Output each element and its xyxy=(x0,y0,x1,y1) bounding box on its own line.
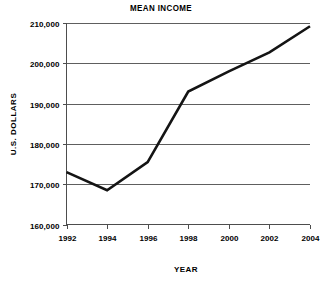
plot-area: 160,000170,000180,000190,000200,000210,0… xyxy=(0,0,322,282)
tick-marks xyxy=(63,24,311,229)
y-axis-tick-label: 180,000 xyxy=(30,141,60,150)
y-axis-tick-labels: 160,000170,000180,000190,000200,000210,0… xyxy=(30,20,60,231)
x-axis-title: YEAR xyxy=(174,265,198,274)
y-axis-tick-label: 160,000 xyxy=(30,222,60,231)
y-axis-title: U.S. DOLLARS xyxy=(9,93,18,156)
x-axis-tick-label: 1998 xyxy=(179,234,198,243)
x-axis-tick-labels: 1992199419961998200020022004 xyxy=(58,234,320,243)
x-axis-tick-label: 1994 xyxy=(98,234,117,243)
y-axis-tick-label: 200,000 xyxy=(30,60,60,69)
x-axis-tick-label: 1992 xyxy=(58,234,77,243)
data-series-line xyxy=(67,26,311,190)
x-axis-tick-label: 1996 xyxy=(139,234,158,243)
y-axis-tick-label: 210,000 xyxy=(30,20,60,29)
x-axis-tick-label: 2004 xyxy=(301,234,320,243)
chart-svg: 160,000170,000180,000190,000200,000210,0… xyxy=(0,0,322,282)
mean-income-line-chart: MEAN INCOME 160,000170,000180,000190,000… xyxy=(0,0,322,282)
y-axis-tick-label: 190,000 xyxy=(30,101,60,110)
x-axis-tick-label: 2000 xyxy=(220,234,239,243)
y-axis-tick-label: 170,000 xyxy=(30,181,60,190)
x-axis-tick-label: 2002 xyxy=(260,234,279,243)
gridlines xyxy=(67,24,311,185)
